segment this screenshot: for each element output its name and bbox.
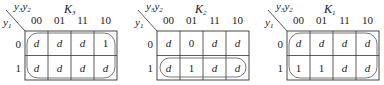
row-header: 1	[143, 62, 153, 74]
col-header: 11	[71, 14, 94, 26]
kmap-k1: y3y2 y1 K1 00 01 11 10 0 1 d d d d 1 1 d…	[262, 0, 384, 85]
kmap-cell: d	[356, 31, 379, 55]
row-header: 1	[273, 62, 283, 74]
col-var-label: y3y2	[146, 1, 163, 14]
col-header: 00	[25, 14, 48, 26]
col-header: 00	[157, 14, 180, 26]
kmap-cell: d	[71, 56, 94, 80]
kmap-cell: d	[310, 31, 333, 55]
kmap-cell: d	[94, 56, 117, 80]
kmap-cell: d	[333, 56, 356, 80]
col-var-label: y3y2	[14, 1, 31, 14]
kmap-cell: d	[71, 31, 94, 55]
col-header: 10	[94, 14, 117, 26]
col-header: 10	[356, 14, 379, 26]
kmap-cell: d	[226, 31, 249, 55]
kmap-cell: d	[356, 56, 379, 80]
row-var-label: y1	[135, 17, 143, 30]
kmap-k2: y3y2 y1 K2 00 01 11 10 0 1 d 0 d d d 1 d…	[132, 0, 257, 85]
kmap-cell: d	[48, 56, 71, 80]
row-var-label: y1	[265, 17, 273, 30]
row-header: 1	[11, 62, 21, 74]
kmap-cell: d	[203, 56, 226, 80]
col-header: 11	[333, 14, 356, 26]
kmap-cell: d	[48, 31, 71, 55]
kmap-cell: d	[333, 31, 356, 55]
kmap-cell: 1	[287, 56, 310, 80]
kmap-cell: d	[25, 56, 48, 80]
row-header: 0	[143, 38, 153, 50]
col-header: 01	[310, 14, 333, 26]
kmap-k3: y3y2 y1 K3 00 01 11 10 0 1 d d d 1 d d d…	[0, 0, 125, 85]
col-header: 01	[180, 14, 203, 26]
row-header: 0	[11, 38, 21, 50]
kmap-cell: d	[203, 31, 226, 55]
col-header: 11	[203, 14, 226, 26]
kmap-cell: 1	[94, 31, 117, 55]
kmap-cell: d	[25, 31, 48, 55]
kmap-cell: 1	[310, 56, 333, 80]
kmap-cell: d	[287, 31, 310, 55]
kmap-cell: d	[226, 56, 249, 80]
kmap-cell: d	[157, 31, 180, 55]
col-header: 10	[226, 14, 249, 26]
kmap-cell: 1	[180, 56, 203, 80]
kmap-cell: d	[157, 56, 180, 80]
kmap-cell: 0	[180, 31, 203, 55]
col-header: 01	[48, 14, 71, 26]
col-header: 00	[287, 14, 310, 26]
row-var-label: y1	[3, 17, 11, 30]
row-header: 0	[273, 38, 283, 50]
col-var-label: y3y2	[276, 1, 293, 14]
